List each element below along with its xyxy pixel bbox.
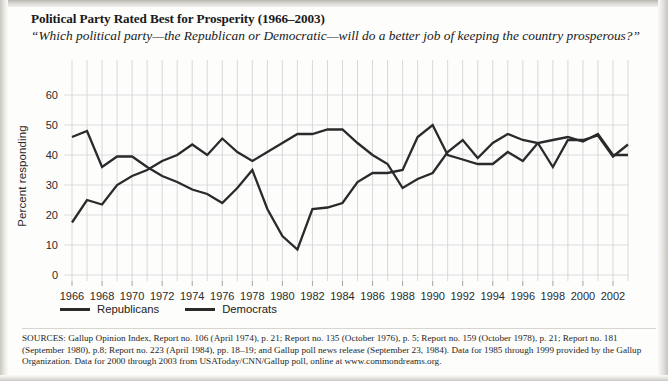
y-tick-label: 60	[46, 89, 58, 101]
x-tick-label: 1966	[60, 290, 84, 302]
x-tick-label: 1998	[541, 290, 565, 302]
x-tick-label: 1972	[150, 290, 174, 302]
x-tick-label: 1990	[420, 290, 444, 302]
x-tick-label: 2002	[601, 290, 625, 302]
y-tick-label: 30	[46, 179, 58, 191]
x-tick-label: 1992	[450, 290, 474, 302]
x-tick-label: 1982	[300, 290, 324, 302]
x-tick-label: 1976	[210, 290, 234, 302]
y-tick-label: 10	[46, 239, 58, 251]
y-tick-label: 50	[46, 119, 58, 131]
x-tick-label: 1968	[90, 290, 114, 302]
section-divider	[22, 328, 656, 329]
legend-label-republicans: Republicans	[97, 303, 159, 315]
page-canvas: Political Party Rated Best for Prosperit…	[0, 0, 668, 381]
x-tick-label: 1980	[270, 290, 294, 302]
legend-item-republicans: Republicans	[60, 303, 159, 315]
x-tick-label: 2000	[571, 290, 595, 302]
x-tick-label: 1978	[240, 290, 264, 302]
page-edge-top	[0, 0, 668, 7]
legend-item-democrats: Democrats	[185, 303, 277, 315]
x-tick-label: 1996	[511, 290, 535, 302]
page-subtitle: “Which political party—the Republican or…	[31, 28, 640, 44]
legend-line-icon-republicans	[60, 308, 90, 311]
x-tick-label: 1994	[481, 290, 505, 302]
series-line-republicans	[72, 125, 628, 250]
line-chart: 0102030405060196619681970197219741976197…	[0, 52, 668, 312]
y-tick-label: 40	[46, 149, 58, 161]
x-tick-label: 1984	[330, 290, 354, 302]
y-tick-label: 20	[46, 209, 58, 221]
page-edge-bottom	[0, 375, 668, 381]
y-axis-label: Percent responding	[16, 91, 28, 261]
legend-label-democrats: Democrats	[222, 303, 277, 315]
chart-container: Percent responding 010203040506019661968…	[0, 52, 668, 312]
x-tick-label: 1970	[120, 290, 144, 302]
x-tick-label: 1988	[390, 290, 414, 302]
x-tick-label: 1986	[360, 290, 384, 302]
y-tick-label: 0	[52, 269, 58, 281]
sources-note: SOURCES: Gallup Opinion Index, Report no…	[22, 333, 654, 368]
series-line-democrats	[72, 130, 628, 223]
page-title: Political Party Rated Best for Prosperit…	[31, 11, 325, 27]
x-tick-label: 1974	[180, 290, 204, 302]
legend-line-icon-democrats	[185, 308, 215, 311]
chart-legend: Republicans Democrats	[60, 303, 277, 315]
